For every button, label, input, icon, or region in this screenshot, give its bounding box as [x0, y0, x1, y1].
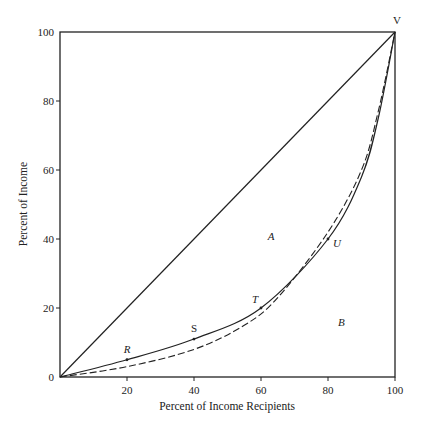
x-tick-label: 40 [189, 384, 201, 396]
y-axis-title: Percent of Income [17, 162, 29, 246]
point-marker [126, 358, 129, 361]
region-label-a: A [267, 230, 275, 242]
point-label-t: T [252, 293, 259, 305]
point-label-v: V [393, 14, 401, 26]
x-tick-label: 20 [122, 384, 134, 396]
y-axis-ticks: 020406080100 [38, 26, 61, 383]
x-tick-label: 100 [387, 384, 404, 396]
point-label-r: R [123, 343, 131, 355]
lorenz-curve-chart: 20406080100 020406080100 RSTUV AB Percen… [0, 0, 423, 426]
y-tick-label: 60 [43, 164, 55, 176]
point-label-u: U [333, 237, 342, 249]
y-tick-label: 0 [49, 371, 55, 383]
y-tick-label: 40 [43, 233, 55, 245]
point-label-s: S [191, 322, 197, 334]
x-axis-ticks: 20406080100 [122, 377, 404, 396]
y-tick-label: 100 [38, 26, 55, 38]
point-marker [193, 338, 196, 341]
region-label-b: B [338, 316, 345, 328]
x-tick-label: 60 [256, 384, 268, 396]
y-tick-label: 20 [43, 302, 55, 314]
curve-points: RSTUV [123, 14, 401, 361]
y-tick-label: 80 [43, 95, 55, 107]
x-axis-title: Percent of Income Recipients [159, 400, 295, 413]
point-marker [260, 307, 263, 310]
x-tick-label: 80 [323, 384, 335, 396]
point-marker [327, 238, 330, 241]
